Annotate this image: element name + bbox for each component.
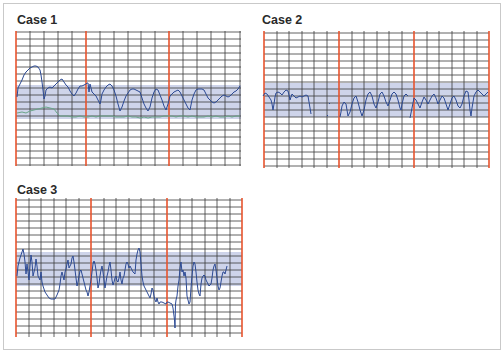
case-3-chart [16,198,242,337]
case-1-chart [16,31,241,166]
fetal-heart-rate-trace-c [327,115,328,116]
normal-range-band [264,83,489,117]
fetal-heart-rate-trace-b [329,103,330,104]
tracing-panels [0,0,504,354]
case-2-chart [263,31,489,168]
